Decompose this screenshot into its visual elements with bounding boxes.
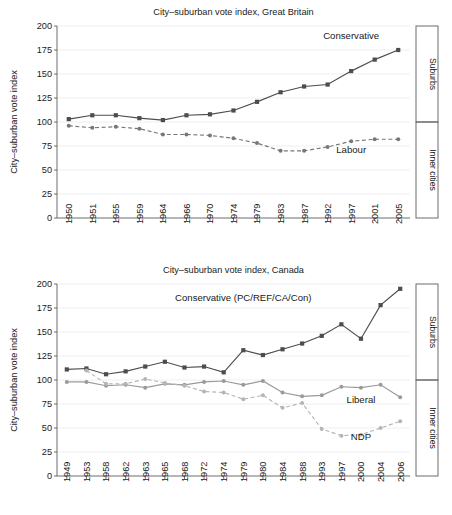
x-tick-label: 1949 [62,462,72,482]
data-point [378,303,382,307]
data-point [349,139,353,143]
y-tick-label: 150 [37,327,52,337]
data-point [302,149,306,153]
series-label: Conservative [323,30,379,41]
y-tick-label: 125 [37,351,52,361]
data-point [241,397,245,401]
data-point [143,364,147,368]
data-point [320,334,324,338]
data-point [373,137,377,141]
side-label-suburbs: Suburbs [428,58,438,90]
x-tick-label: 1951 [88,204,98,224]
x-tick-label: 1964 [158,204,168,224]
data-point [320,393,324,397]
y-tick-label: 200 [37,21,52,31]
chart-title: City–suburban vote index, Great Britain [153,7,313,17]
data-point [300,401,304,405]
chart-panel-canada: City–suburban vote index, Canada02550751… [0,258,452,515]
data-point [67,117,71,121]
data-point [163,360,167,364]
data-point [143,377,147,381]
data-point [65,380,69,384]
data-point [398,419,402,423]
data-point [278,90,282,94]
data-point [281,406,285,410]
data-point [114,125,118,129]
y-axis-title: City–suburban vote index [9,328,19,432]
data-point [398,287,402,291]
data-point [222,379,226,383]
x-tick-label: 1965 [160,462,170,482]
data-point [261,393,265,397]
y-tick-label: 50 [42,165,52,175]
y-tick-label: 0 [47,471,52,481]
data-point [65,367,69,371]
x-tick-label: 1992 [323,204,333,224]
data-point [280,347,284,351]
x-tick-label: 1997 [347,204,357,224]
data-point [202,380,206,384]
y-tick-label: 125 [37,93,52,103]
data-point [231,108,235,112]
x-tick-label: 1963 [141,462,151,482]
x-tick-label: 2000 [356,462,366,482]
data-point [202,390,206,394]
data-point [359,386,363,390]
data-point [379,383,383,387]
x-tick-label: 1980 [258,462,268,482]
x-tick-label: 1997 [337,462,347,482]
x-tick-label: 1979 [239,462,249,482]
data-point [302,84,306,88]
chart-canada: City–suburban vote index, Canada02550751… [0,258,452,515]
data-point [279,149,283,153]
data-point [184,113,188,117]
data-point [161,118,165,122]
x-tick-label: 1953 [82,462,92,482]
x-tick-label: 1970 [205,204,215,224]
series-conservative: Conservative [67,30,401,122]
chart-great-britain: City–suburban vote index, Great Britain0… [0,0,452,258]
x-tick-label: 1988 [298,462,308,482]
data-point [222,390,226,394]
chart-panel-great-britain: City–suburban vote index, Great Britain0… [0,0,452,258]
side-label-inner-cities: Inner cities [428,149,438,191]
x-tick-label: 1972 [199,462,209,482]
data-point [398,395,402,399]
x-tick-label: 1958 [101,462,111,482]
x-tick-label: 1983 [276,204,286,224]
data-point [124,369,128,373]
data-point [396,48,400,52]
side-label-suburbs: Suburbs [428,316,438,348]
data-point [255,100,259,104]
data-point [300,341,304,345]
data-point [137,116,141,120]
series-liberal: Liberal [65,379,402,405]
series-label: Conservative (PC/REF/CA/Con) [175,292,311,303]
chart-title: City–suburban vote index, Canada [163,265,305,275]
series-label: Liberal [347,394,376,405]
data-point [84,380,88,384]
x-tick-label: 1968 [180,462,190,482]
data-point [339,434,343,438]
data-point [90,126,94,130]
x-tick-label: 1974 [219,462,229,482]
data-point [208,112,212,116]
data-point [84,368,88,372]
y-tick-label: 100 [37,375,52,385]
data-point [208,133,212,137]
y-tick-label: 150 [37,69,52,79]
x-tick-label: 1950 [64,204,74,224]
data-point [232,136,236,140]
x-tick-label: 1974 [229,204,239,224]
data-point [67,124,71,128]
x-tick-label: 2004 [376,462,386,482]
data-point [326,145,330,149]
y-tick-label: 200 [37,279,52,289]
data-point [182,365,186,369]
data-point [143,386,147,390]
data-point [359,337,363,341]
data-point [261,379,265,383]
x-tick-label: 2006 [396,462,406,482]
data-point [349,69,353,73]
y-tick-label: 75 [42,399,52,409]
